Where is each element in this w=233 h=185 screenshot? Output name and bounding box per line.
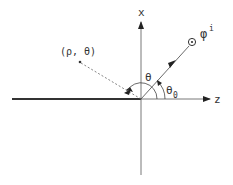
x-axis-label: x: [138, 6, 145, 19]
source-superscript: i: [209, 24, 214, 33]
observation-point: [79, 61, 82, 64]
theta-label: θ: [145, 71, 152, 84]
theta0-arc-arrow-icon: [157, 80, 162, 86]
theta0-label: θ: [166, 84, 173, 97]
diagram-canvas: x z φ i (ρ, θ) θ θ 0: [0, 0, 233, 185]
point-label: (ρ, θ): [60, 46, 96, 57]
source-symbol: φ: [200, 27, 207, 41]
incident-arrow-icon: [168, 60, 176, 68]
observation-ray: [81, 63, 141, 99]
theta0-subscript: 0: [173, 91, 178, 100]
z-axis-label: z: [214, 93, 221, 106]
circled-dot-icon: [188, 38, 195, 45]
